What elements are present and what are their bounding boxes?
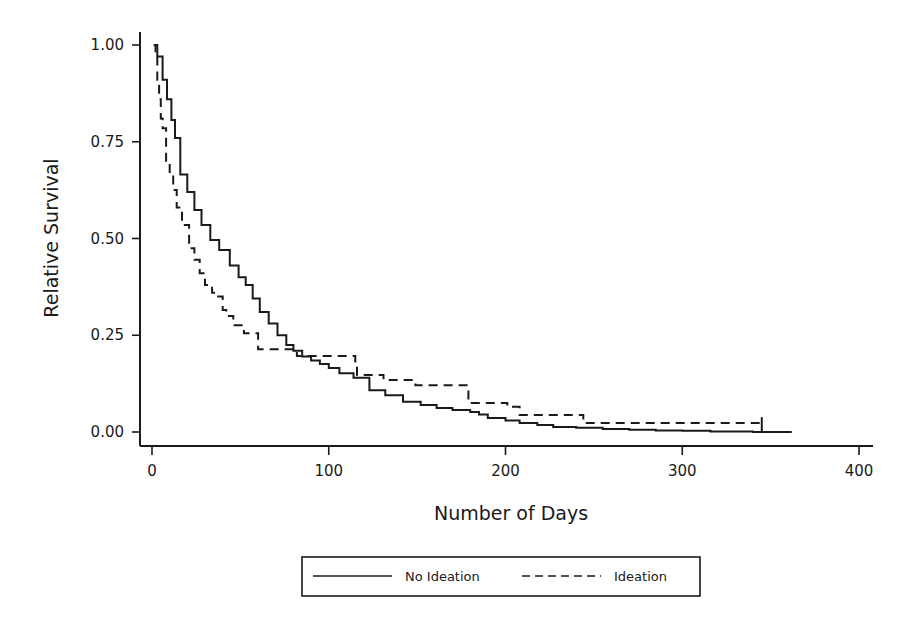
x-tick-label: 200 (491, 462, 520, 480)
y-tick-label: 0.00 (91, 423, 124, 441)
axes: 0.000.250.500.751.00 0100200300400 (91, 32, 874, 480)
x-axis-title: Number of Days (434, 502, 588, 524)
y-tick-label: 0.25 (91, 326, 124, 344)
x-tick-label: 400 (845, 462, 874, 480)
x-tick-label: 300 (668, 462, 697, 480)
y-tick-label: 0.50 (91, 230, 124, 248)
chart-canvas: 0.000.250.500.751.00 0100200300400 Numbe… (0, 0, 918, 635)
x-tick-label: 100 (314, 462, 343, 480)
x-tick-label: 0 (147, 462, 157, 480)
y-axis-ticks: 0.000.250.500.751.00 (91, 36, 140, 441)
legend-label-no-ideation: No Ideation (405, 569, 480, 584)
y-tick-label: 0.75 (91, 133, 124, 151)
y-tick-label: 1.00 (91, 36, 124, 54)
survival-chart: 0.000.250.500.751.00 0100200300400 Numbe… (0, 0, 918, 635)
x-axis-ticks: 0100200300400 (147, 446, 873, 480)
curve-ideation (154, 45, 762, 423)
y-axis-title: Relative Survival (40, 158, 62, 317)
legend-label-ideation: Ideation (614, 569, 667, 584)
curve-no-ideation (154, 45, 792, 432)
legend: No Ideation Ideation (302, 557, 700, 596)
plot-curves (154, 45, 792, 433)
